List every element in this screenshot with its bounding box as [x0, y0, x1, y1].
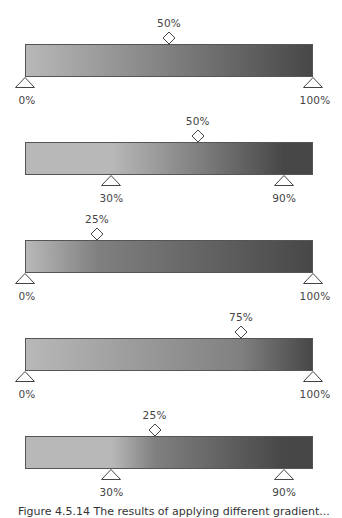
- midpoint-label: 25%: [85, 213, 109, 225]
- midpoint-diamond-icon[interactable]: [148, 423, 162, 437]
- color-stop-triangle-icon[interactable]: [15, 371, 35, 382]
- gradient-row: 25%30%90%: [0, 0, 342, 100]
- midpoint-label: 75%: [229, 311, 253, 323]
- color-stop-triangle-icon[interactable]: [274, 175, 294, 186]
- midpoint-diamond-icon[interactable]: [90, 227, 104, 241]
- color-stop-label: 100%: [300, 290, 331, 302]
- color-stop-triangle-icon[interactable]: [303, 273, 323, 284]
- color-stop-label: 30%: [99, 486, 123, 498]
- color-stop-triangle-icon[interactable]: [101, 175, 121, 186]
- figure-caption: Figure 4.5.14 The results of applying di…: [18, 505, 330, 518]
- midpoint-diamond-icon[interactable]: [191, 129, 205, 143]
- color-stop-triangle-icon[interactable]: [303, 371, 323, 382]
- gradient-bar[interactable]: [25, 142, 313, 175]
- midpoint-label: 50%: [186, 115, 210, 127]
- gradient-bar[interactable]: [25, 338, 313, 371]
- color-stop-label: 0%: [18, 290, 35, 302]
- color-stop-triangle-icon[interactable]: [101, 469, 121, 480]
- color-stop-label: 90%: [272, 486, 296, 498]
- color-stop-label: 100%: [300, 388, 331, 400]
- color-stop-label: 90%: [272, 192, 296, 204]
- midpoint-diamond-icon[interactable]: [234, 325, 248, 339]
- gradient-bar[interactable]: [25, 436, 313, 469]
- color-stop-triangle-icon[interactable]: [15, 273, 35, 284]
- color-stop-label: 0%: [18, 388, 35, 400]
- color-stop-triangle-icon[interactable]: [274, 469, 294, 480]
- color-stop-label: 30%: [99, 192, 123, 204]
- gradient-bar[interactable]: [25, 240, 313, 273]
- midpoint-label: 25%: [143, 409, 167, 421]
